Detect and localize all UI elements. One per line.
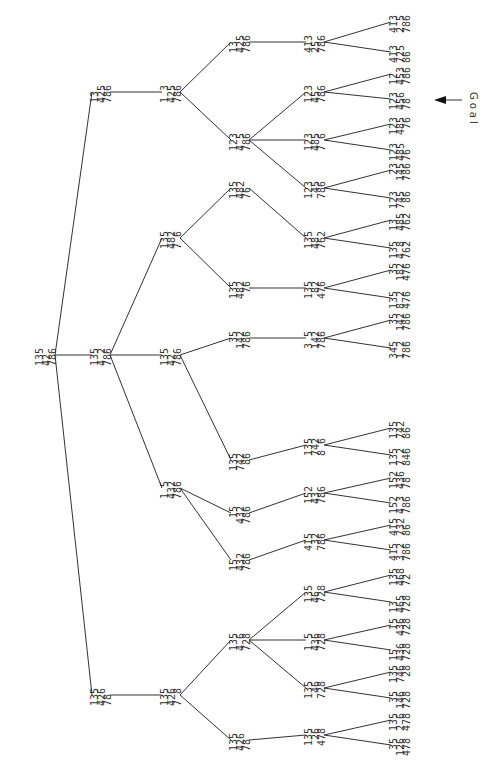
goal-marker: Goal	[434, 92, 479, 127]
tree-edge	[55, 92, 92, 355]
puzzle-state-node: 3 5142786	[303, 331, 327, 349]
puzzle-state-node: 15436728	[388, 618, 412, 636]
tree-edge	[324, 672, 391, 688]
tree-edge	[324, 575, 391, 592]
tree-edge	[180, 695, 231, 740]
puzzle-state-node: 135 26478	[303, 728, 327, 746]
puzzle-row: 728	[316, 681, 327, 699]
search-tree-diagram: 13542 78613 4257861354 278613542678 1 34…	[0, 0, 503, 761]
puzzle-row: 786	[241, 553, 252, 571]
puzzle-row: 786	[316, 35, 327, 53]
puzzle-state-node: 13548 762	[303, 231, 327, 249]
puzzle-state-node: 135482 76	[228, 281, 252, 299]
puzzle-state-node: 4132 5786	[388, 15, 412, 33]
tree-edge	[324, 42, 391, 52]
puzzle-state-node: 13 425786	[89, 85, 113, 103]
puzzle-state-node: 13 465728	[388, 595, 412, 613]
tree-edge	[324, 288, 391, 298]
tree-edge	[324, 525, 391, 540]
puzzle-state-node: 1524 3786	[388, 496, 412, 514]
tree-edge	[324, 592, 391, 602]
tree-edge	[249, 735, 306, 740]
puzzle-state-node: 4153 2786	[388, 543, 412, 561]
puzzle-row: 786	[102, 85, 113, 103]
puzzle-state-node: 13 485762	[388, 213, 412, 231]
puzzle-row: 786	[241, 506, 252, 524]
puzzle-row: 786	[401, 67, 412, 85]
tree-edge	[110, 355, 162, 488]
puzzle-row: 76	[241, 181, 252, 199]
tree-edge	[249, 493, 306, 513]
puzzle-state-node: 135746 28	[388, 665, 412, 683]
puzzle-row: 786	[401, 543, 412, 561]
puzzle-state-node: 15 436728	[388, 643, 412, 661]
tree-edge	[324, 270, 391, 288]
puzzle-row: 76	[401, 117, 412, 135]
puzzle-row: 78	[102, 688, 113, 706]
puzzle-row: 786	[316, 533, 327, 551]
puzzle-state-node: 35126478	[388, 738, 412, 756]
tree-edge	[180, 238, 231, 288]
tree-edge	[180, 488, 231, 513]
puzzle-state-node: 1354 2786	[89, 348, 113, 366]
puzzle-state-node: 41573286	[388, 518, 412, 536]
puzzle-row: 786	[172, 348, 183, 366]
tree-edge	[324, 140, 391, 150]
puzzle-row: 786	[47, 348, 58, 366]
puzzle-state-node: 35146728	[388, 691, 412, 709]
tree-edge	[324, 238, 391, 248]
puzzle-row: 762	[316, 231, 327, 249]
puzzle-state-node: 12348576	[388, 143, 412, 161]
puzzle-state-node: 23145786	[388, 163, 412, 181]
puzzle-row: 78	[401, 471, 412, 489]
puzzle-state-node: 13546872	[388, 568, 412, 586]
tree-edge	[324, 22, 391, 42]
puzzle-state-node: 15243 786	[303, 486, 327, 504]
tree-edge	[324, 625, 391, 640]
puzzle-state-node: 1234 5786	[228, 133, 252, 151]
tree-edge	[249, 640, 306, 688]
puzzle-row: 728	[401, 643, 412, 661]
tree-edge	[180, 640, 231, 695]
puzzle-row: 76	[241, 281, 252, 299]
puzzle-state-node: 135 82476	[303, 281, 327, 299]
tree-edge	[180, 488, 231, 560]
puzzle-state-node: 123745 86	[388, 191, 412, 209]
puzzle-row: 76	[401, 143, 412, 161]
tree-edge	[180, 188, 231, 238]
puzzle-state-node: 1357 2846	[388, 448, 412, 466]
puzzle-state-node: 13 425786	[228, 35, 252, 53]
puzzle-row: 728	[241, 633, 252, 651]
puzzle-row: 476	[401, 263, 412, 281]
puzzle-row: 28	[401, 665, 412, 683]
puzzle-state-node: 13548276	[228, 181, 252, 199]
tree-edge	[180, 42, 231, 92]
tree-edge	[324, 640, 391, 650]
puzzle-row: 478	[316, 728, 327, 746]
puzzle-row: 86	[241, 453, 252, 471]
puzzle-state-node: 13542 786	[159, 348, 183, 366]
tree-edge	[324, 735, 391, 745]
puzzle-row: 762	[401, 213, 412, 231]
puzzle-row: 786	[316, 486, 327, 504]
tree-edge	[324, 188, 391, 198]
puzzle-row: 786	[172, 85, 183, 103]
puzzle-row: 78	[241, 733, 252, 751]
tree-edge	[249, 188, 306, 238]
puzzle-row: 786	[401, 163, 412, 181]
tree-edge	[324, 338, 391, 348]
puzzle-row: 7 6	[316, 133, 327, 151]
goal-label: Goal	[468, 92, 479, 127]
goal-state-node: 12345678	[388, 92, 412, 110]
tree-edge	[180, 92, 231, 140]
tree-edge	[249, 140, 306, 188]
puzzle-state-node: 135742 86	[228, 453, 252, 471]
puzzle-row: 786	[316, 331, 327, 349]
puzzle-state-node: 15432786	[228, 506, 252, 524]
tree-edge	[324, 720, 391, 735]
puzzle-row: 72	[401, 568, 412, 586]
puzzle-state-node: 123 45786	[303, 181, 327, 199]
tree-edge	[55, 355, 92, 695]
puzzle-state-node: 15 432786	[228, 553, 252, 571]
tree-edge	[324, 540, 391, 550]
